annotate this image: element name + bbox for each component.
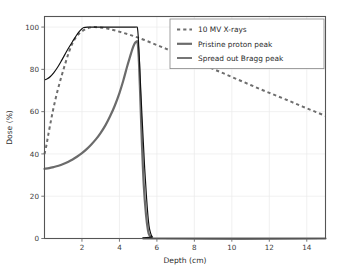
legend-label: 10 MV X-rays [198, 25, 247, 34]
y-tick-label: 20 [30, 192, 40, 201]
legend-label: Spread out Bragg peak [198, 54, 284, 63]
legend-label: Pristine proton peak [198, 40, 273, 49]
y-tick-label: 0 [34, 234, 39, 243]
y-tick-label: 40 [30, 150, 40, 159]
y-axis-title: Dose (%) [5, 110, 14, 145]
series-line-pristine-proton-peak [45, 41, 326, 238]
x-tick-label: 8 [192, 243, 197, 252]
chart-legend: 10 MV X-raysPristine proton peakSpread o… [170, 19, 324, 69]
chart-figure: 2468101214 020406080100 Depth (cm) Dose … [0, 0, 338, 271]
x-tick-label: 10 [227, 243, 237, 252]
x-tick-label: 2 [80, 243, 85, 252]
x-axis-title: Depth (cm) [163, 256, 206, 265]
y-tick-label: 80 [30, 65, 40, 74]
x-tick-label: 6 [155, 243, 160, 252]
x-tick-label: 12 [265, 243, 274, 252]
dose-depth-plot: 2468101214 020406080100 Depth (cm) Dose … [0, 0, 338, 271]
y-tick-label: 60 [30, 107, 40, 116]
x-axis-ticks: 2468101214 [80, 239, 312, 252]
y-axis-ticks: 020406080100 [25, 23, 44, 243]
x-tick-label: 14 [302, 243, 312, 252]
y-tick-label: 100 [25, 23, 39, 32]
x-tick-label: 4 [117, 243, 122, 252]
